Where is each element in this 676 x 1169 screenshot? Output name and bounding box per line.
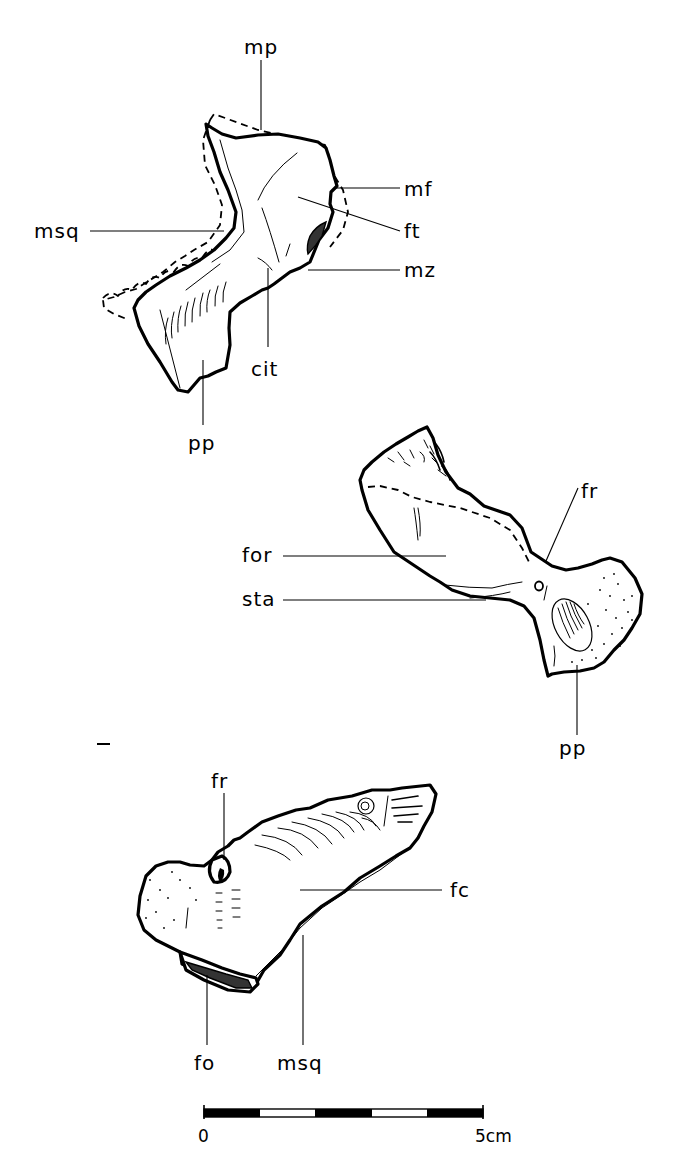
scale-segment-1 <box>204 1109 260 1117</box>
label-mf: mf <box>404 177 433 201</box>
scale-bar: 0 5cm <box>198 1105 512 1146</box>
middle-bone-outline <box>360 427 642 676</box>
bone-figure: mp mf msq ft mz cit pp <box>0 0 676 1169</box>
label-pp: pp <box>188 431 215 455</box>
foramen-fr <box>535 582 543 591</box>
label-sta: sta <box>242 587 276 611</box>
scale-segment-5 <box>427 1109 483 1117</box>
label-fo: fo <box>194 1051 215 1075</box>
lower-view: fr fc fo msq <box>138 769 470 1075</box>
label-pp: pp <box>559 736 586 760</box>
scale-start-label: 0 <box>198 1126 209 1146</box>
label-mp: mp <box>244 35 278 59</box>
label-cit: cit <box>251 357 278 381</box>
label-fr: fr <box>211 769 228 793</box>
middle-view: fr for sta pp <box>242 427 642 760</box>
label-fr: fr <box>581 479 598 503</box>
scale-segment-3 <box>315 1109 372 1117</box>
label-for: for <box>242 543 273 567</box>
label-msq: msq <box>34 219 80 243</box>
label-fc: fc <box>450 878 470 902</box>
scale-end-label: 5cm <box>475 1126 512 1146</box>
upper-view: mp mf msq ft mz cit pp <box>34 35 436 455</box>
leader-fr <box>546 488 578 561</box>
label-mz: mz <box>404 258 436 282</box>
label-msq: msq <box>277 1051 323 1075</box>
upper-bone-outline <box>134 124 337 392</box>
label-ft: ft <box>404 219 421 243</box>
